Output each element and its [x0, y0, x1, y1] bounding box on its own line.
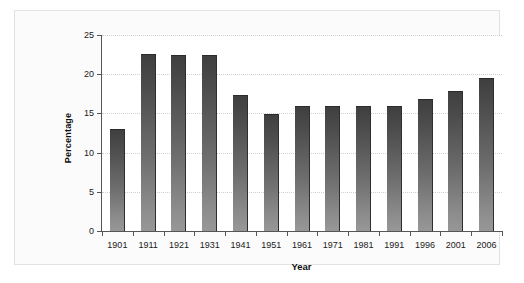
x-tick-mark	[256, 231, 257, 236]
y-tick-mark	[97, 74, 102, 75]
figure-frame: Percentage 0510152025 190119111921193119…	[14, 10, 500, 265]
y-tick-mark	[97, 192, 102, 193]
bar	[295, 106, 310, 231]
x-tick-mark	[317, 231, 318, 236]
x-tick-mark	[471, 231, 472, 236]
plot-area: 0510152025 19011911192119311941195119611…	[101, 35, 502, 232]
x-tick-mark	[348, 231, 349, 236]
figure-container: Percentage 0510152025 190119111921193119…	[0, 0, 524, 283]
x-tick-mark	[133, 231, 134, 236]
gridline	[102, 74, 502, 75]
x-tick-mark	[194, 231, 195, 236]
x-tick-label: 1901	[107, 241, 127, 250]
x-tick-label: 1971	[323, 241, 343, 250]
bar	[233, 95, 248, 231]
x-tick-mark	[164, 231, 165, 236]
y-axis-label: Percentage	[63, 112, 73, 163]
bar	[110, 129, 125, 231]
y-tick-mark	[97, 113, 102, 114]
x-tick-mark	[502, 231, 503, 236]
x-tick-label: 2001	[446, 241, 466, 250]
x-tick-label: 1931	[200, 241, 220, 250]
x-tick-mark	[102, 231, 103, 236]
x-tick-label: 1921	[169, 241, 189, 250]
x-tick-label: 1981	[354, 241, 374, 250]
bar	[202, 55, 217, 231]
x-tick-label: 1951	[261, 241, 281, 250]
x-tick-label: 2006	[477, 241, 497, 250]
bar	[141, 54, 156, 231]
bar	[418, 99, 433, 231]
x-tick-mark	[379, 231, 380, 236]
y-tick-label: 5	[89, 187, 94, 196]
bar	[171, 55, 186, 231]
x-tick-mark	[410, 231, 411, 236]
x-tick-mark	[225, 231, 226, 236]
bar	[356, 106, 371, 231]
bar	[479, 78, 494, 231]
x-tick-label: 1941	[230, 241, 250, 250]
y-tick-mark	[97, 35, 102, 36]
x-tick-mark	[440, 231, 441, 236]
y-tick-label: 20	[84, 70, 94, 79]
x-axis-label: Year	[101, 261, 502, 272]
x-tick-label: 1961	[292, 241, 312, 250]
y-tick-label: 10	[84, 148, 94, 157]
x-tick-label: 1911	[138, 241, 157, 250]
x-tick-mark	[287, 231, 288, 236]
x-tick-label: 1991	[384, 241, 404, 250]
bar	[325, 106, 340, 231]
bar	[448, 91, 463, 231]
gridline	[102, 35, 502, 36]
y-tick-label: 25	[84, 31, 94, 40]
y-tick-label: 15	[84, 109, 94, 118]
y-tick-mark	[97, 153, 102, 154]
y-tick-label: 0	[89, 227, 94, 236]
bar	[387, 106, 402, 231]
bar	[264, 114, 279, 231]
x-tick-label: 1996	[415, 241, 435, 250]
